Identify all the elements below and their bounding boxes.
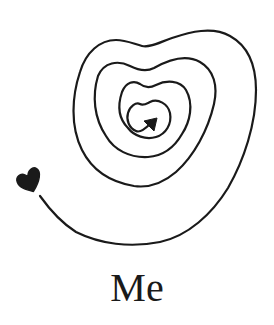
- heart-icon: [15, 167, 45, 196]
- spiral-line: [40, 31, 256, 245]
- caption-label: Me: [0, 266, 274, 310]
- heart-spiral-illustration: [0, 0, 274, 260]
